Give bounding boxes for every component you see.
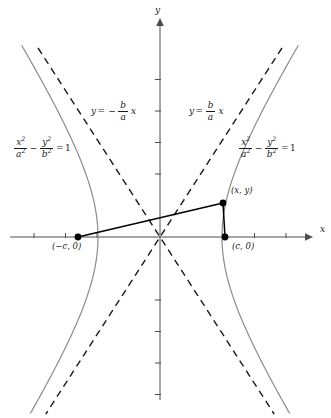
asymptote-positive-slope-line bbox=[46, 48, 282, 414]
equation-right-num2-exponent: 2 bbox=[272, 135, 276, 142]
asymptote-right-denominator: a bbox=[206, 112, 216, 122]
focus-left-point bbox=[75, 234, 82, 241]
equation-left-den2-exponent: 2 bbox=[48, 147, 52, 154]
hyperbola-right-branch-curve bbox=[222, 45, 298, 413]
equation-left-den1: a2 bbox=[14, 149, 27, 159]
equation-left-minus: − bbox=[28, 144, 39, 153]
equation-right-den2-exponent: 2 bbox=[273, 147, 277, 154]
y-axis bbox=[155, 18, 164, 400]
asymptote-left-equals: = bbox=[96, 107, 107, 116]
asymptote-right-label: y = b a x bbox=[189, 101, 223, 123]
equation-left-rhs: 1 bbox=[65, 144, 71, 153]
focus-left-label: (−c, 0) bbox=[52, 242, 81, 251]
equation-left: x2 a2 − y2 b2 = 1 bbox=[13, 138, 71, 160]
equation-right-second-fraction: y2 b2 bbox=[265, 137, 279, 159]
equation-left-first-fraction: x2 a2 bbox=[14, 137, 27, 159]
asymptote-left-numerator: b bbox=[118, 100, 128, 111]
asymptote-left-denominator: a bbox=[118, 112, 128, 122]
asymptote-negative-slope-line bbox=[38, 48, 274, 414]
equation-right-den1-exponent: 2 bbox=[246, 147, 250, 154]
focal-radius-left-segment bbox=[78, 203, 223, 237]
equation-right: x2 a2 − y2 b2 = 1 bbox=[238, 138, 296, 160]
equation-left-num1-exponent: 2 bbox=[21, 135, 25, 142]
asymptote-right-fraction: b a bbox=[206, 100, 216, 122]
equation-left-den1-exponent: 2 bbox=[21, 147, 25, 154]
figure-canvas bbox=[0, 0, 331, 418]
equation-left-equals: = bbox=[54, 144, 65, 153]
equation-right-den1: a2 bbox=[239, 149, 252, 159]
equation-left-den2: b2 bbox=[40, 149, 54, 159]
x-axis-label: x bbox=[320, 225, 325, 234]
equation-right-rhs: 1 bbox=[290, 144, 296, 153]
equation-right-num1-exponent: 2 bbox=[246, 135, 250, 142]
hyperbola-left-branch-curve bbox=[22, 45, 98, 413]
equation-left-second-fraction: y2 b2 bbox=[40, 137, 54, 159]
point-on-curve-label: (x, y) bbox=[231, 186, 253, 195]
focus-right-label: (c, 0) bbox=[232, 242, 254, 251]
asymptote-right-numerator: b bbox=[206, 100, 216, 111]
asymptote-left-label: y = − b a x bbox=[91, 101, 136, 123]
focal-radii bbox=[78, 203, 225, 237]
point-on-curve-point bbox=[220, 200, 227, 207]
equation-right-equals: = bbox=[279, 144, 290, 153]
equation-right-minus: − bbox=[253, 144, 264, 153]
hyperbola-figure: x y y = − b a x y = b a x x2 a2 − y2 b2 … bbox=[0, 0, 331, 418]
equation-right-first-fraction: x2 a2 bbox=[239, 137, 252, 159]
asymptote-right-equals: = bbox=[194, 107, 205, 116]
asymptote-right-variable: x bbox=[216, 107, 223, 116]
focus-right-point bbox=[222, 234, 229, 241]
asymptote-left-minus: − bbox=[107, 107, 118, 116]
asymptote-left-fraction: b a bbox=[118, 100, 128, 122]
asymptote-left-variable: x bbox=[129, 107, 136, 116]
equation-left-num2-exponent: 2 bbox=[47, 135, 51, 142]
equation-right-den2: b2 bbox=[265, 149, 279, 159]
y-axis-label: y bbox=[155, 6, 160, 15]
